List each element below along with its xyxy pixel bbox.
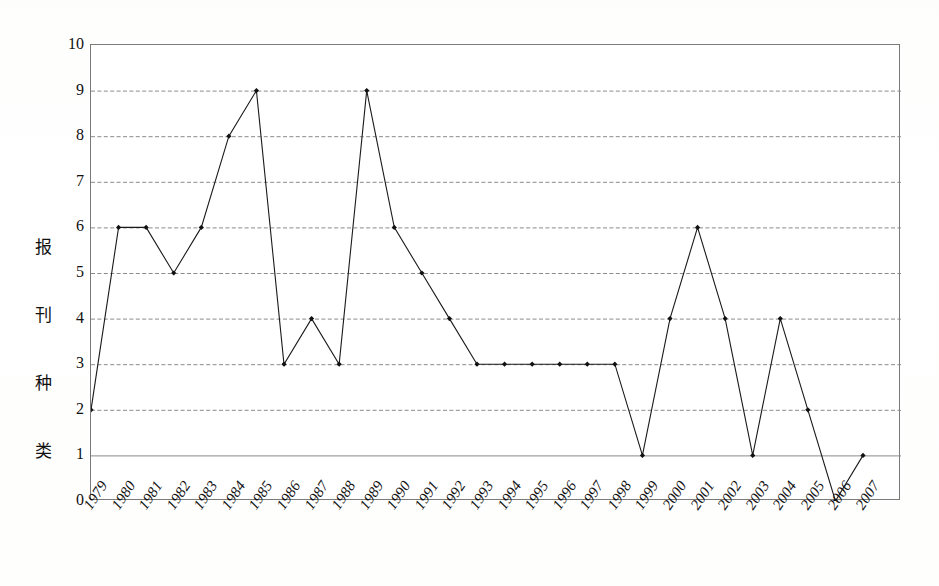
data-point-marker [474, 362, 479, 367]
y-axis-tick-label: 6 [58, 218, 84, 234]
y-axis-tick-label: 1 [58, 446, 84, 462]
y-axis-tick-label: 9 [58, 82, 84, 98]
data-point-marker [309, 316, 314, 321]
line-chart: 报 刊 种 类 109876543210 1979198019811982198… [0, 0, 939, 586]
data-point-marker [530, 362, 535, 367]
data-point-marker [281, 362, 286, 367]
data-point-marker [171, 270, 176, 275]
data-point-marker [226, 134, 231, 139]
plot-svg [91, 45, 901, 501]
y-axis-tick-label: 10 [58, 36, 84, 52]
data-point-marker [750, 453, 755, 458]
y-axis-title: 报 刊 种 类 [26, 196, 60, 502]
data-point-marker [419, 270, 424, 275]
data-point-marker [392, 225, 397, 230]
data-point-marker [640, 453, 645, 458]
y-axis-title-char-1: 报 [26, 230, 60, 264]
plot-area [90, 44, 900, 500]
data-point-marker [144, 225, 149, 230]
y-axis-tick-labels: 109876543210 [56, 0, 84, 586]
y-axis-tick-label: 8 [58, 127, 84, 143]
data-point-marker [502, 362, 507, 367]
data-point-marker [612, 362, 617, 367]
y-axis-title-char-3: 种 [26, 366, 60, 400]
x-axis-tick-labels: 1979198019811982198319841985198619871988… [90, 500, 900, 586]
data-point-marker [695, 225, 700, 230]
data-point-marker [254, 88, 259, 93]
data-point-marker [91, 407, 94, 412]
data-point-marker [667, 316, 672, 321]
data-point-marker [557, 362, 562, 367]
data-series-line [91, 91, 863, 501]
y-axis-tick-label: 2 [58, 401, 84, 417]
data-point-marker [778, 316, 783, 321]
data-point-marker [447, 316, 452, 321]
y-axis-tick-label: 3 [58, 355, 84, 371]
y-axis-tick-label: 4 [58, 310, 84, 326]
data-point-marker [723, 316, 728, 321]
y-axis-title-char-2: 刊 [26, 298, 60, 332]
data-point-marker [199, 225, 204, 230]
y-axis-title-char-4: 类 [26, 434, 60, 468]
data-point-marker [585, 362, 590, 367]
data-point-marker [860, 453, 865, 458]
gridlines [91, 91, 901, 456]
y-axis-tick-label: 7 [58, 173, 84, 189]
y-axis-tick-label: 5 [58, 264, 84, 280]
y-axis-tick-label: 0 [58, 492, 84, 508]
data-point-marker [116, 225, 121, 230]
data-point-marker [805, 407, 810, 412]
data-point-marker [364, 88, 369, 93]
data-point-marker [337, 362, 342, 367]
